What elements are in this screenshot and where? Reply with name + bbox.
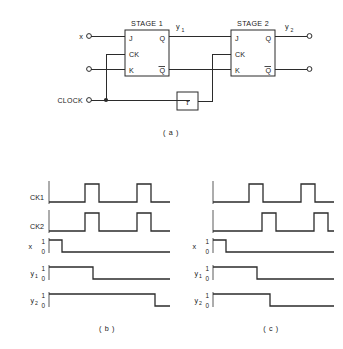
- y1-label-sub: 1: [182, 27, 185, 33]
- panel-c-trace-ck1: [213, 184, 334, 202]
- stage2-pin-ck: CK: [235, 50, 245, 59]
- x-input-terminal[interactable]: [87, 34, 92, 39]
- timing-panel-c: x 1 0 y 1 1 0 y 2 1 0 ( c ): [192, 181, 334, 333]
- panel-b-label-ck1: CK1: [30, 193, 44, 202]
- xbar-input-terminal[interactable]: [87, 67, 92, 72]
- stage1-title: STAGE 1: [131, 19, 163, 28]
- panel-b-level-x-low: 0: [41, 248, 45, 255]
- stage1-pin-qbar: Q: [159, 66, 165, 75]
- panel-b-label-y1-sub: 1: [35, 273, 38, 279]
- y2-output-terminal[interactable]: [307, 34, 312, 39]
- timing-panel-b: CK1 CK2 x 1 0 y 1 1 0 y 2 1 0: [28, 181, 170, 333]
- figure-canvas: STAGE 1 J CK K Q Q STAGE 2 J CK K Q Q x: [0, 0, 343, 349]
- panel-c-trace-y1: [213, 267, 334, 279]
- caption-a: ( a ): [163, 128, 179, 137]
- panel-b-label-y2-sub: 2: [35, 300, 38, 306]
- panel-b-level-y2-low: 0: [41, 302, 45, 309]
- panel-b-trace-ck1: [49, 184, 170, 202]
- stage2-title: STAGE 2: [237, 19, 269, 28]
- panel-b-trace-y1: [49, 267, 170, 279]
- panel-b-level-y2-high: 1: [41, 292, 45, 299]
- panel-c-label-y2-sub: 2: [199, 300, 202, 306]
- x-input-label: x: [79, 32, 83, 41]
- figure-root: STAGE 1 J CK K Q Q STAGE 2 J CK K Q Q x: [0, 0, 343, 349]
- panel-b-label-x: x: [28, 242, 32, 251]
- panel-c-level-x-high: 1: [205, 238, 209, 245]
- panel-b-level-x-high: 1: [41, 238, 45, 245]
- panel-b-label-y1-base: y: [30, 269, 34, 278]
- stage1-pin-j: J: [129, 34, 133, 43]
- panel-c-level-x-low: 0: [205, 248, 209, 255]
- panel-c-level-y1-high: 1: [205, 265, 209, 272]
- wire-tau-to-ck2: [198, 54, 231, 101]
- y2-label-sub: 2: [291, 27, 294, 33]
- caption-b: ( b ): [99, 324, 115, 333]
- panel-c-level-y2-low: 0: [205, 302, 209, 309]
- y2-label-base: y: [285, 22, 289, 31]
- panel-c-level-y2-high: 1: [205, 292, 209, 299]
- panel-c-trace-y2: [213, 294, 334, 306]
- panel-b-trace-y2: [49, 294, 170, 306]
- stage1-pin-k: K: [129, 66, 134, 75]
- panel-c-label-y1-base: y: [194, 269, 198, 278]
- stage1-pin-ck: CK: [129, 50, 139, 59]
- panel-c-label-y1-sub: 1: [199, 273, 202, 279]
- tau-delay-label: τ: [186, 98, 190, 107]
- panel-b-level-y1-high: 1: [41, 265, 45, 272]
- panel-c-label-y2-base: y: [194, 296, 198, 305]
- stage2-pin-j: J: [235, 34, 239, 43]
- wire-clock-to-ck1: [106, 54, 125, 100]
- stage2-pin-k: K: [235, 66, 240, 75]
- y1-label-base: y: [176, 22, 180, 31]
- panel-c-trace-ck2: [213, 213, 334, 231]
- panel-c-trace-x: [213, 240, 334, 252]
- caption-c: ( c ): [263, 324, 278, 333]
- panel-b-trace-x: [49, 240, 170, 252]
- circuit-diagram: STAGE 1 J CK K Q Q STAGE 2 J CK K Q Q x: [57, 19, 312, 137]
- stage2-pin-q: Q: [265, 34, 271, 43]
- clock-input-terminal[interactable]: [87, 98, 92, 103]
- panel-b-trace-ck2: [49, 213, 170, 231]
- panel-c-label-x: x: [192, 242, 196, 251]
- stage1-pin-q: Q: [159, 34, 165, 43]
- panel-b-level-y1-low: 0: [41, 275, 45, 282]
- panel-c-level-y1-low: 0: [205, 275, 209, 282]
- panel-b-label-ck2: CK2: [30, 222, 44, 231]
- panel-b-label-y2-base: y: [30, 296, 34, 305]
- stage2-pin-qbar: Q: [265, 66, 271, 75]
- clock-input-label: CLOCK: [57, 97, 83, 104]
- y2bar-output-terminal[interactable]: [307, 67, 312, 72]
